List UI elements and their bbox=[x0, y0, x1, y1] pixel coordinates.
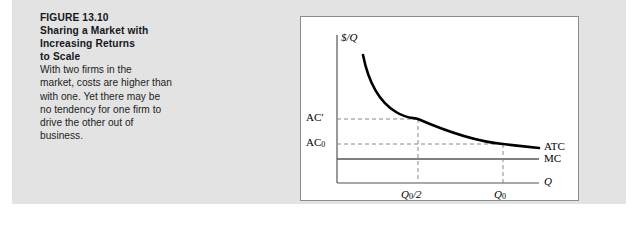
figure-caption: FIGURE 13.10 Sharing a Market with Incre… bbox=[40, 11, 240, 142]
curve-label-mc: MC bbox=[544, 152, 561, 164]
chart-frame: $/Q AC′ AC0 Q0/2 Q0 ATC MC Q bbox=[300, 16, 579, 201]
figure-title-line-2: Increasing Returns bbox=[40, 37, 240, 50]
x-axis-title: Q bbox=[544, 175, 552, 187]
figure-title-line-3: to Scale bbox=[40, 50, 240, 63]
figure-body-line-5: drive the other out of bbox=[40, 116, 240, 129]
figure-title-line-1: Sharing a Market with bbox=[40, 24, 240, 37]
y-axis-title: $/Q bbox=[341, 31, 358, 43]
x-tick-label-q0-half: Q0/2 bbox=[401, 188, 422, 201]
figure-page: FIGURE 13.10 Sharing a Market with Incre… bbox=[0, 0, 639, 225]
figure-body-line-2: market, costs are higher than bbox=[40, 76, 240, 89]
y-tick-label-ac-zero: AC0 bbox=[306, 136, 325, 149]
x-tick-label-q0: Q0 bbox=[494, 188, 506, 201]
figure-body-line-1: With two firms in the bbox=[40, 63, 240, 76]
figure-body-line-4: no tendency for one firm to bbox=[40, 103, 240, 116]
figure-body-line-3: with one. Yet there may be bbox=[40, 90, 240, 103]
curve-label-atc: ATC bbox=[544, 140, 565, 152]
figure-body-line-6: business. bbox=[40, 129, 240, 142]
atc-curve bbox=[363, 55, 539, 148]
y-tick-label-ac-prime: AC′ bbox=[306, 111, 324, 123]
figure-number: FIGURE 13.10 bbox=[40, 11, 240, 24]
cost-curve-chart bbox=[301, 17, 578, 200]
